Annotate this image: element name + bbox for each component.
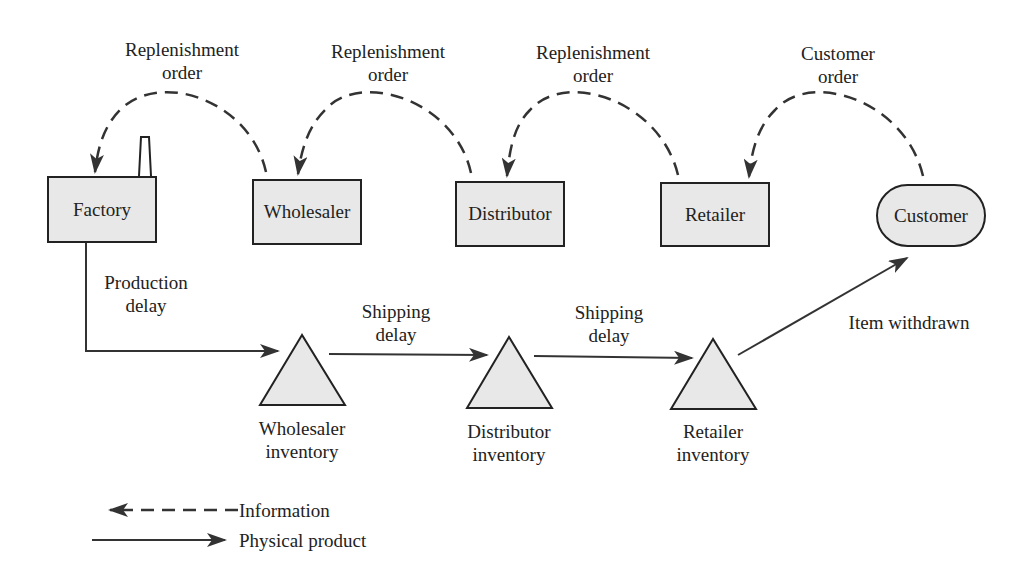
wholesaler-inventory-triangle-icon — [260, 335, 345, 405]
info-label-4: Customer order — [801, 42, 875, 88]
info-label-3-line2: order — [536, 64, 650, 87]
wholesaler-label: Wholesaler — [264, 201, 351, 223]
retailer-inventory-line2: inventory — [677, 443, 750, 466]
info-label-3: Replenishment order — [536, 41, 650, 87]
customer-node: Customer — [876, 184, 986, 247]
legend-information-label: Information — [239, 499, 330, 522]
factory-node: Factory — [47, 176, 157, 243]
product-arrow-distributor-to-retailer — [534, 356, 692, 358]
customer-label: Customer — [894, 205, 968, 227]
info-arrow-wholesaler-to-factory — [95, 92, 266, 172]
shipping-delay-label-1: Shipping delay — [362, 300, 431, 346]
product-arrow-wholesaler-to-distributor — [329, 354, 487, 355]
distributor-label: Distributor — [468, 203, 551, 225]
wholesaler-inventory-label: Wholesaler inventory — [259, 417, 346, 463]
production-delay-label: Production delay — [104, 271, 187, 317]
info-arrow-distributor-to-wholesaler — [298, 92, 471, 174]
shipping-delay-2-line1: Shipping — [575, 301, 644, 324]
info-label-3-line1: Replenishment — [536, 41, 650, 64]
info-arrow-retailer-to-distributor — [507, 92, 678, 176]
item-withdrawn-text: Item withdrawn — [849, 311, 970, 334]
distributor-inventory-line1: Distributor — [467, 420, 550, 443]
retailer-node: Retailer — [660, 182, 770, 247]
info-label-1-line2: order — [125, 61, 239, 84]
factory-label: Factory — [73, 199, 131, 221]
info-label-2: Replenishment order — [331, 40, 445, 86]
shipping-delay-1-line1: Shipping — [362, 300, 431, 323]
distributor-inventory-line2: inventory — [467, 443, 550, 466]
distributor-inventory-triangle-icon — [467, 337, 552, 408]
production-delay-line2: delay — [104, 294, 187, 317]
retailer-inventory-triangle-icon — [671, 339, 756, 409]
retailer-label: Retailer — [685, 204, 745, 226]
distributor-node: Distributor — [455, 181, 565, 247]
wholesaler-inventory-line1: Wholesaler — [259, 417, 346, 440]
info-label-2-line2: order — [331, 63, 445, 86]
legend-physical-label: Physical product — [239, 529, 366, 552]
info-label-2-line1: Replenishment — [331, 40, 445, 63]
info-label-4-line1: Customer — [801, 42, 875, 65]
production-delay-line1: Production — [104, 271, 187, 294]
shipping-delay-1-line2: delay — [362, 323, 431, 346]
info-label-1: Replenishment order — [125, 38, 239, 84]
item-withdrawn-label: Item withdrawn — [849, 311, 970, 334]
chimney-icon — [139, 137, 151, 176]
shipping-delay-2-line2: delay — [575, 324, 644, 347]
product-arrow-retailer-to-customer — [738, 258, 907, 355]
info-arrow-customer-to-retailer — [749, 92, 923, 177]
info-label-1-line1: Replenishment — [125, 38, 239, 61]
retailer-inventory-line1: Retailer — [677, 420, 750, 443]
wholesaler-node: Wholesaler — [252, 179, 362, 245]
shipping-delay-label-2: Shipping delay — [575, 301, 644, 347]
wholesaler-inventory-line2: inventory — [259, 440, 346, 463]
info-label-4-line2: order — [801, 65, 875, 88]
distributor-inventory-label: Distributor inventory — [467, 420, 550, 466]
retailer-inventory-label: Retailer inventory — [677, 420, 750, 466]
